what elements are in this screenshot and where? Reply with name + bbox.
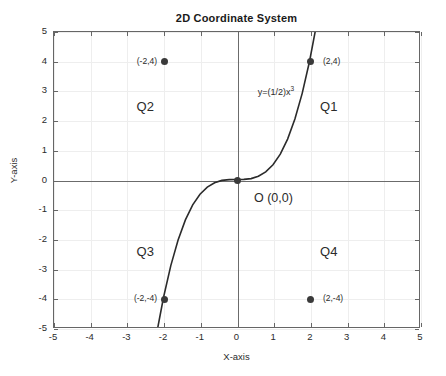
y-tick-label: -1	[17, 203, 47, 214]
x-tick	[127, 32, 128, 36]
y-tick-label: 2	[17, 114, 47, 125]
point-q4-label: (2,-4)	[323, 293, 343, 303]
point-q2	[161, 58, 168, 65]
y-tick-label: 3	[17, 84, 47, 95]
x-tick-label: -4	[75, 331, 105, 342]
point-q3-label: (-2,-4)	[121, 293, 157, 303]
chart-figure: 2D Coordinate System (-2,4)(2,4)(-2,-4)(…	[0, 0, 446, 376]
y-tick-label: 4	[17, 55, 47, 66]
x-tick	[384, 323, 385, 327]
y-tick	[415, 62, 419, 63]
quadrant-q3: Q3	[137, 244, 154, 259]
y-tick	[415, 151, 419, 152]
x-tick-label: 1	[258, 331, 288, 342]
y-tick-label: -2	[17, 233, 47, 244]
x-tick-label: 4	[368, 331, 398, 342]
chart-title: 2D Coordinate System	[53, 12, 420, 24]
x-tick	[238, 323, 239, 327]
x-tick	[421, 32, 422, 36]
y-tick	[415, 121, 419, 122]
y-tick-label: -5	[17, 322, 47, 333]
y-tick	[54, 210, 58, 211]
quadrant-q2: Q2	[137, 99, 154, 114]
x-tick	[164, 323, 165, 327]
x-tick	[311, 32, 312, 36]
y-tick	[415, 240, 419, 241]
y-tick-label: 5	[17, 25, 47, 36]
y-tick	[415, 181, 419, 182]
y-tick-label: -4	[17, 292, 47, 303]
y-tick	[54, 91, 58, 92]
point-q2-label: (-2,4)	[121, 56, 157, 66]
y-tick	[415, 32, 419, 33]
y-tick	[54, 270, 58, 271]
curve-equation-label: y=(1/2)x3	[258, 87, 294, 97]
y-axis-label: Y-axis	[8, 141, 19, 201]
x-tick	[201, 323, 202, 327]
y-tick	[415, 91, 419, 92]
x-tick	[348, 32, 349, 36]
x-tick-label: 3	[332, 331, 362, 342]
x-tick-label: -1	[185, 331, 215, 342]
y-tick	[54, 151, 58, 152]
y-tick	[54, 181, 58, 182]
quadrant-q4: Q4	[320, 244, 337, 259]
x-tick	[127, 323, 128, 327]
x-tick	[384, 32, 385, 36]
x-tick	[91, 323, 92, 327]
y-tick	[54, 299, 58, 300]
point-q3	[161, 296, 168, 303]
y-tick	[415, 210, 419, 211]
y-tick-label: 0	[17, 174, 47, 185]
x-tick-label: 2	[295, 331, 325, 342]
y-tick	[54, 329, 58, 330]
x-tick-label: 5	[405, 331, 435, 342]
x-axis-label: X-axis	[53, 351, 420, 362]
x-tick	[421, 323, 422, 327]
x-tick	[311, 323, 312, 327]
y-tick	[415, 329, 419, 330]
y-tick-label: 1	[17, 144, 47, 155]
x-tick	[91, 32, 92, 36]
gridline-vertical	[421, 32, 422, 327]
x-tick	[238, 32, 239, 36]
x-tick	[164, 32, 165, 36]
y-tick	[54, 62, 58, 63]
point-origin	[234, 177, 241, 184]
y-tick-label: -3	[17, 263, 47, 274]
x-tick-label: 0	[222, 331, 252, 342]
origin-text: O (0,0)	[254, 191, 293, 205]
gridline-horizontal	[54, 329, 419, 330]
y-tick	[415, 270, 419, 271]
point-q1-label: (2,4)	[323, 56, 340, 66]
y-tick	[54, 32, 58, 33]
y-tick	[415, 299, 419, 300]
x-tick-label: -3	[111, 331, 141, 342]
x-tick	[201, 32, 202, 36]
x-tick	[274, 323, 275, 327]
plot-area: (-2,4)(2,4)(-2,-4)(2,-4) Q1Q2Q3Q4O (0,0)…	[53, 31, 420, 328]
x-tick	[348, 323, 349, 327]
x-tick	[54, 323, 55, 327]
y-tick	[54, 240, 58, 241]
x-tick-label: -2	[148, 331, 178, 342]
x-tick	[274, 32, 275, 36]
y-tick	[54, 121, 58, 122]
quadrant-q1: Q1	[320, 99, 337, 114]
